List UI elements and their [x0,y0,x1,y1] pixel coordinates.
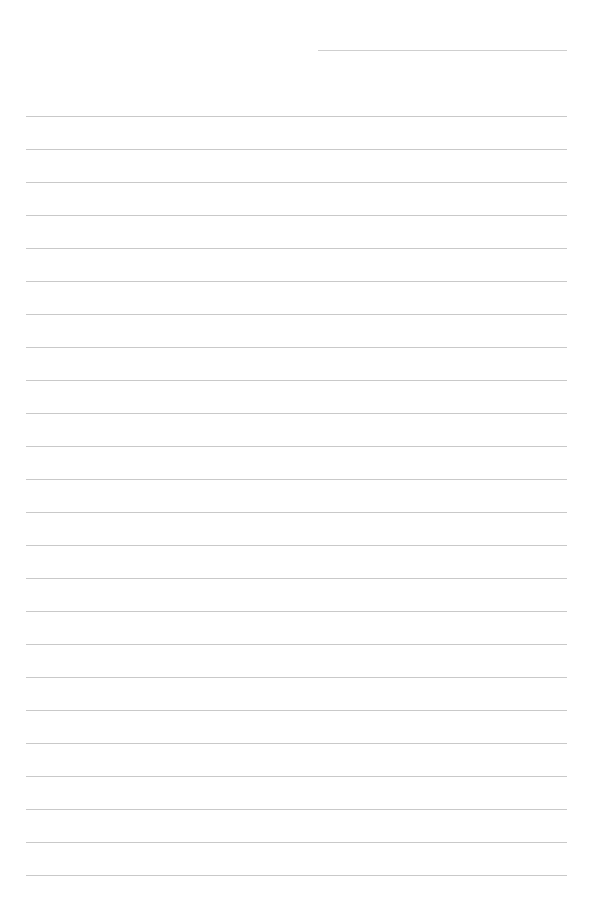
ruled-line [26,215,567,216]
ruled-line [26,314,567,315]
ruled-line [26,446,567,447]
ruled-line [26,710,567,711]
ruled-line [26,281,567,282]
ruled-line [26,347,567,348]
header-line [318,50,567,51]
ruled-line [26,842,567,843]
ruled-line [26,380,567,381]
ruled-line [26,611,567,612]
ruled-line [26,875,567,876]
ruled-line [26,413,567,414]
ruled-line [26,677,567,678]
ruled-line [26,182,567,183]
ruled-line [26,479,567,480]
ruled-line [26,545,567,546]
ruled-line [26,776,567,777]
ruled-line [26,248,567,249]
ruled-line [26,578,567,579]
ruled-line [26,743,567,744]
ruled-line [26,149,567,150]
ruled-line [26,644,567,645]
ruled-line [26,809,567,810]
ruled-line [26,512,567,513]
ruled-line [26,116,567,117]
lined-page [0,0,595,909]
